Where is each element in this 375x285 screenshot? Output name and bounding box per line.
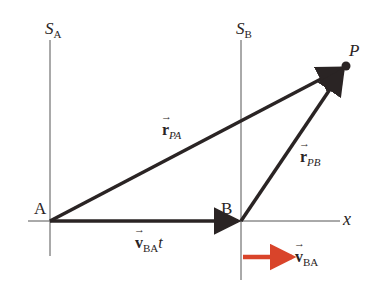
vba-t-suffix: t <box>158 234 162 251</box>
point-p-label: P <box>349 42 359 59</box>
point-a-label: A <box>34 200 46 217</box>
frame-a-letter: S <box>45 19 54 38</box>
vba-t-sub: BA <box>143 242 158 254</box>
vba-label: vBA <box>295 249 318 265</box>
frame-b-label: SB <box>236 20 252 37</box>
vba-t-symbol: v <box>135 235 143 251</box>
r-pa-sub: PA <box>169 129 181 141</box>
r-pb-label: rPB <box>300 149 321 165</box>
frame-a-label: SA <box>45 20 61 37</box>
vba-t-label: vBAt <box>135 235 163 251</box>
point-p <box>342 62 351 71</box>
r-pb-sub: PB <box>307 156 320 168</box>
frame-b-sub: B <box>245 28 252 40</box>
point-b-label: B <box>221 200 232 217</box>
frame-b-letter: S <box>236 19 245 38</box>
frame-a-sub: A <box>54 28 62 40</box>
vba-sub: BA <box>303 256 318 268</box>
x-axis-label: x <box>343 210 351 228</box>
r-pa-label: rPA <box>162 122 181 138</box>
vba-symbol: v <box>295 249 303 265</box>
relative-motion-diagram <box>0 0 375 285</box>
